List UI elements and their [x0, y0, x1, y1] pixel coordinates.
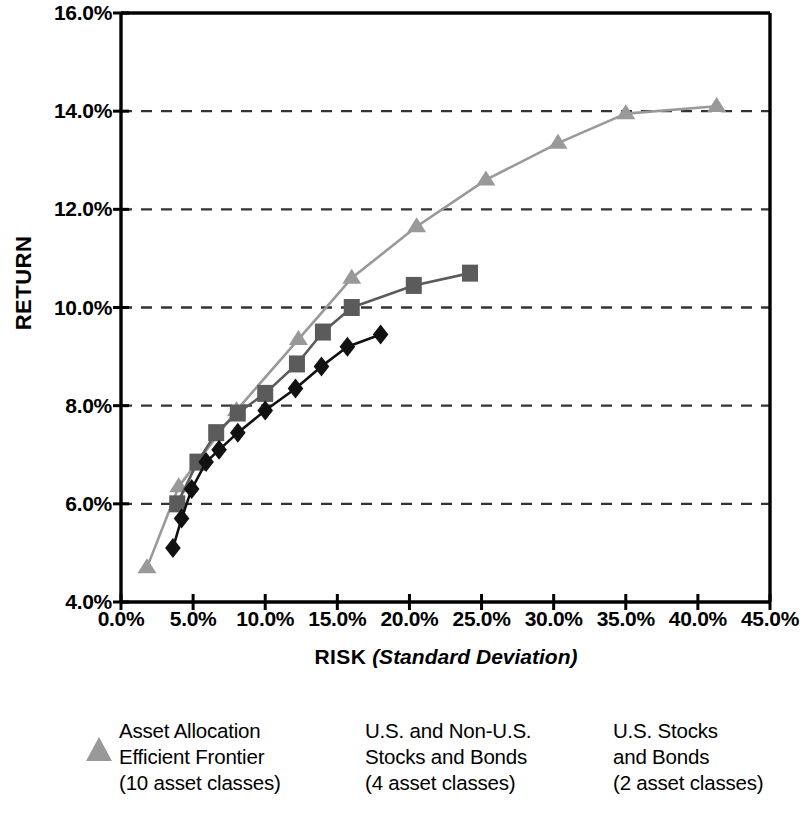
series-layer: [137, 97, 726, 573]
legend-item-us-and-non-us: U.S. and Non-U.S. Stocks and Bonds (4 as…: [332, 718, 531, 796]
legend-label: U.S. and Non-U.S. Stocks and Bonds (4 as…: [365, 718, 531, 796]
y-axis-title: RETURN: [11, 203, 37, 363]
diamond-marker-icon: [580, 720, 606, 746]
plot-area: [0, 0, 807, 831]
x-axis-title-bold: RISK: [315, 645, 367, 668]
y-axis-tick-label: 14.0%: [12, 100, 112, 121]
legend-label: Asset Allocation Efficient Frontier (10 …: [119, 718, 281, 796]
x-axis-tick-label: 45.0%: [715, 608, 807, 629]
x-axis-title-italic: (Standard Deviation): [372, 645, 577, 668]
axis-tick-marks: [113, 13, 770, 610]
legend-item-us-stocks-bonds: U.S. Stocks and Bonds (2 asset classes): [580, 718, 763, 796]
y-axis-tick-label: 16.0%: [12, 2, 112, 23]
y-axis-tick-label: 6.0%: [12, 493, 112, 514]
x-axis-tick-labels: 0.0%5.0%10.0%15.0%20.0%25.0%30.0%35.0%40…: [0, 608, 807, 642]
triangle-marker-icon: [86, 720, 112, 746]
x-axis-title: RISK (Standard Deviation): [121, 645, 771, 668]
chart-legend: Asset Allocation Efficient Frontier (10 …: [0, 718, 807, 823]
efficient-frontier-chart: 4.0%6.0%8.0%10.0%12.0%14.0%16.0% 0.0%5.0…: [0, 0, 807, 831]
y-axis-tick-label: 8.0%: [12, 395, 112, 416]
square-marker-icon: [332, 720, 358, 746]
legend-item-asset-allocation: Asset Allocation Efficient Frontier (10 …: [86, 718, 281, 796]
legend-label: U.S. Stocks and Bonds (2 asset classes): [613, 718, 763, 796]
